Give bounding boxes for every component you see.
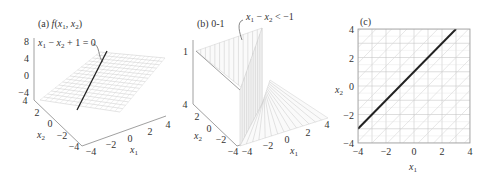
panel-a-x-tick-label: 0 — [128, 133, 133, 144]
panel-b-x-tick-label: 2 — [306, 127, 311, 138]
panel-c-y-tick-label: 2 — [349, 53, 354, 64]
panel-c-y-tick-label: 4 — [349, 24, 354, 35]
panel-b-xlabel: x1 — [289, 145, 298, 158]
panel-a: (a) f(x1, x2) 840−4 420−2−4 −4−2024 x1 −… — [18, 18, 170, 157]
panel-a-mesh-line — [115, 58, 161, 112]
panel-a-z-tick-label: 8 — [24, 36, 29, 47]
panel-c: (c) −4−2024−4−2024 x2 x1 — [334, 0, 473, 179]
panel-b-x-tick-label: −2 — [263, 140, 274, 151]
panel-c-title: (c) — [360, 16, 371, 28]
panel-c-x-tick-label: 2 — [440, 146, 445, 157]
panel-c-ylabel: x2 — [334, 84, 343, 97]
panel-c-x-tick-label: 4 — [468, 146, 473, 157]
panel-a-mesh-line — [120, 58, 165, 112]
panel-a-z-tick-label: 4 — [24, 53, 29, 64]
panel-a-ylabel: x2 — [36, 129, 45, 142]
panel-a-title: (a) f(x1, x2) — [38, 18, 82, 31]
panel-c-hatch-line — [358, 0, 470, 32]
figure: (a) f(x1, x2) 840−4 420−2−4 −4−2024 x1 −… — [0, 0, 495, 179]
panel-b-y-tick-label: 4 — [183, 99, 188, 110]
panel-a-y-tick-label: −2 — [57, 130, 68, 141]
panel-b-x-tick-label: 4 — [325, 119, 330, 130]
panel-c-xlabel: x1 — [408, 161, 417, 174]
panel-b: (b) 0-1 1 420−2−4 −4−2024 x1 − x2 < −1 x… — [183, 11, 330, 158]
panel-a-mesh-line — [90, 56, 141, 108]
panel-a-x-tick-label: 4 — [166, 119, 171, 130]
panel-b-x-tick-label: 0 — [285, 134, 290, 145]
panel-c-y-tick-label: −4 — [343, 138, 354, 149]
panel-a-x-tick-label: −2 — [106, 139, 117, 150]
panel-a-annotation: x1 − x2 + 1 = 0 — [37, 37, 96, 50]
panel-a-y-tick-label: 2 — [35, 107, 40, 118]
panel-a-y-tick-label: 0 — [48, 118, 53, 129]
panel-b-title: (b) 0-1 — [197, 18, 225, 30]
panel-c-hatch-line — [358, 0, 470, 1]
panel-c-y-tick-label: −2 — [343, 110, 354, 121]
panel-c-x-tick-label: −4 — [353, 146, 364, 157]
panel-c-x-tick-label: 0 — [412, 146, 417, 157]
panel-b-y-tick-label: 2 — [195, 111, 200, 122]
panel-c-x-tick-label: −2 — [381, 146, 392, 157]
panel-b-ylabel: x2 — [193, 130, 202, 143]
panel-a-y-tick-label: −4 — [69, 141, 80, 152]
panel-a-xlabel: x1 — [129, 144, 138, 157]
panel-b-y-tick-label: 0 — [207, 123, 212, 134]
panel-a-x-tick-label: −4 — [86, 146, 97, 157]
panel-a-y-tick-label: 4 — [23, 95, 28, 106]
panel-a-x-tick-label: 2 — [148, 126, 153, 137]
panel-b-y-tick-label: −2 — [216, 134, 227, 145]
panel-b-z-tick-label: 1 — [183, 46, 188, 57]
panel-a-mesh-line — [105, 57, 153, 110]
panel-c-hatch-line — [358, 0, 470, 16]
panel-b-annotation: x1 − x2 < −1 — [245, 11, 294, 24]
panel-a-z-tick-label: 0 — [24, 70, 29, 81]
panel-c-y-tick-label: 0 — [349, 81, 354, 92]
panel-a-x-axis — [82, 116, 166, 146]
panel-b-y-tick-label: −4 — [228, 146, 239, 157]
panel-b-x-tick-label: −4 — [242, 146, 253, 157]
panel-a-boundary-line — [77, 51, 107, 110]
